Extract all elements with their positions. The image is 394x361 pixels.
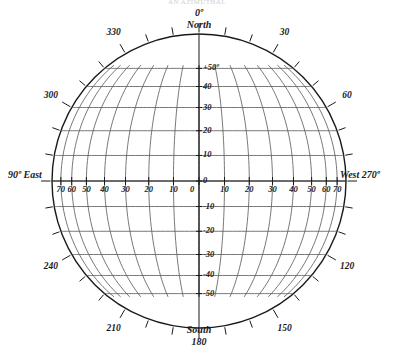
- longitude-tick-e10: 10: [220, 185, 229, 194]
- latitude-tick--20: -20: [203, 226, 214, 235]
- latitude-tick-20: 20: [203, 126, 212, 135]
- bearing-label-120: 120: [340, 262, 354, 272]
- longitude-tick-w0: 0: [190, 185, 194, 194]
- longitude-tick-e40: 40: [289, 185, 298, 194]
- cardinal-south-degree: 180: [192, 337, 207, 347]
- bearing-label-150: 150: [277, 324, 291, 334]
- latitude-tick--40: -40: [203, 270, 214, 279]
- latitude-tick-0: 0: [203, 176, 207, 185]
- bearing-label-240: 240: [44, 262, 58, 272]
- longitude-tick-w20: 20: [144, 185, 153, 194]
- latitude-tick-40: 40: [203, 82, 212, 91]
- longitude-tick-w70: 70: [57, 185, 66, 194]
- longitude-tick-e60: 60: [322, 185, 331, 194]
- bearing-label-30: 30: [280, 28, 290, 38]
- bearing-label-330: 330: [106, 28, 120, 38]
- azimuthal-projection-figure: AN AZIMUTHAL 0ºNorthSouth18090º EastWest…: [0, 0, 394, 361]
- bearing-label-300: 300: [44, 91, 58, 101]
- cardinal-east-label: 90º East: [8, 170, 42, 180]
- latitude-tick--50: -50: [203, 289, 214, 298]
- cardinal-north-label: North: [187, 20, 211, 30]
- bearing-label-60: 60: [342, 91, 352, 101]
- longitude-tick-w30: 30: [121, 185, 130, 194]
- cardinal-west-label: West 270º: [340, 170, 380, 180]
- longitude-tick-w10: 10: [169, 185, 178, 194]
- longitude-tick-e70: 70: [333, 185, 342, 194]
- longitude-tick-e30: 30: [268, 185, 277, 194]
- latitude-tick--30: -30: [203, 250, 214, 259]
- cardinal-north-degree: 0º: [195, 8, 203, 18]
- longitude-tick-w60: 60: [67, 185, 76, 194]
- longitude-tick-w40: 40: [100, 185, 109, 194]
- latitude-tick--10: -10: [203, 202, 214, 211]
- longitude-tick-w50: 50: [82, 185, 91, 194]
- bearing-label-210: 210: [106, 324, 120, 334]
- latitude-tick-+50º: +50º: [203, 63, 219, 72]
- cardinal-south-label: South: [187, 325, 211, 335]
- latitude-tick-30: 30: [203, 103, 212, 112]
- globe-graticule-svg: [0, 0, 394, 361]
- longitude-tick-e20: 20: [245, 185, 254, 194]
- latitude-tick-10: 10: [203, 150, 212, 159]
- longitude-tick-e50: 50: [307, 185, 316, 194]
